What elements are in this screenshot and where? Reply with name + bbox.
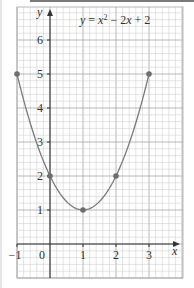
- y-tick-label: 5: [37, 67, 43, 81]
- data-point-marker: [14, 71, 20, 77]
- x-tick-label: 3: [146, 248, 152, 262]
- y-tick-label: 2: [37, 169, 43, 183]
- x-tick-label: 1: [80, 248, 86, 262]
- chart-title: y = x2 − 2x + 2: [79, 13, 150, 27]
- data-point-marker: [146, 71, 152, 77]
- data-point-marker: [80, 207, 86, 213]
- x-axis-label: x: [171, 244, 178, 258]
- y-tick-label: 1: [37, 203, 43, 217]
- x-tick-label: 0: [39, 248, 45, 262]
- x-tick-label: 2: [113, 248, 119, 262]
- y-axis-label: y: [36, 5, 43, 19]
- data-point-marker: [113, 173, 119, 179]
- y-tick-label: 4: [37, 101, 43, 115]
- y-tick-label: 6: [37, 33, 43, 47]
- x-tick-label: −1: [9, 248, 22, 262]
- parabola-chart: 123456−10123 y = x2 − 2x + 2 y x: [0, 0, 194, 288]
- data-point-marker: [47, 173, 53, 179]
